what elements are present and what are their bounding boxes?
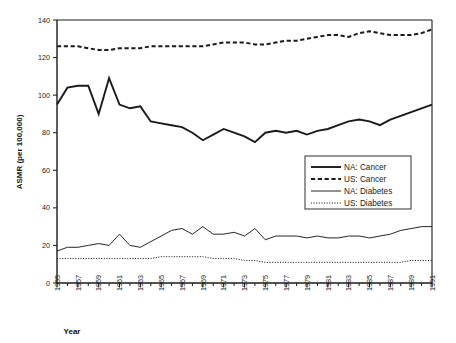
y-tick-label: 100 bbox=[38, 91, 50, 100]
x-tick-label: 1985 bbox=[365, 275, 374, 291]
x-tick-label: 1991 bbox=[428, 275, 437, 291]
x-tick-label: 1971 bbox=[219, 275, 228, 291]
plot-area bbox=[57, 20, 432, 283]
chart-figure: 020406080100120140 195519571959196119631… bbox=[0, 0, 456, 343]
x-tick-label: 1989 bbox=[407, 275, 416, 291]
x-tick-label: 1963 bbox=[136, 275, 145, 291]
y-tick-label: 120 bbox=[38, 53, 50, 62]
y-tick-label: 60 bbox=[42, 166, 50, 175]
x-tick-label: 1977 bbox=[282, 275, 291, 291]
legend-label: NA: Diabetes bbox=[344, 187, 392, 196]
x-tick-label: 1967 bbox=[178, 275, 187, 291]
x-tick-label: 1961 bbox=[115, 275, 124, 291]
y-tick-label: 40 bbox=[42, 203, 50, 212]
x-tick-label: 1965 bbox=[157, 275, 166, 291]
y-tick-label: 20 bbox=[42, 241, 50, 250]
plot-background bbox=[57, 20, 432, 283]
x-tick-label: 1975 bbox=[261, 275, 270, 291]
y-axis-title: ASMR (per 100,000) bbox=[15, 114, 24, 189]
x-tick-label: 1969 bbox=[199, 275, 208, 291]
x-tick-label: 1979 bbox=[303, 275, 312, 291]
y-tick-label: 140 bbox=[38, 16, 50, 25]
x-tick-label: 1957 bbox=[74, 275, 83, 291]
y-tick-label: 80 bbox=[42, 128, 50, 137]
legend-label: US: Cancer bbox=[344, 175, 387, 184]
x-tick-label: 1987 bbox=[386, 275, 395, 291]
y-axis-ticks: 020406080100120140 bbox=[38, 16, 57, 288]
chart-legend: NA: CancerUS: CancerNA: DiabetesUS: Diab… bbox=[305, 156, 411, 209]
legend-label: NA: Cancer bbox=[344, 163, 387, 172]
x-tick-label: 1959 bbox=[94, 275, 103, 291]
x-tick-label: 1973 bbox=[240, 275, 249, 291]
y-tick-label: 0 bbox=[46, 279, 50, 288]
chart-canvas: 020406080100120140 195519571959196119631… bbox=[0, 0, 456, 343]
x-tick-label: 1981 bbox=[324, 275, 333, 291]
x-axis-title: Year bbox=[64, 327, 81, 336]
legend-label: US: Diabetes bbox=[344, 199, 392, 208]
x-tick-label: 1983 bbox=[344, 275, 353, 291]
x-tick-label: 1955 bbox=[53, 275, 62, 291]
